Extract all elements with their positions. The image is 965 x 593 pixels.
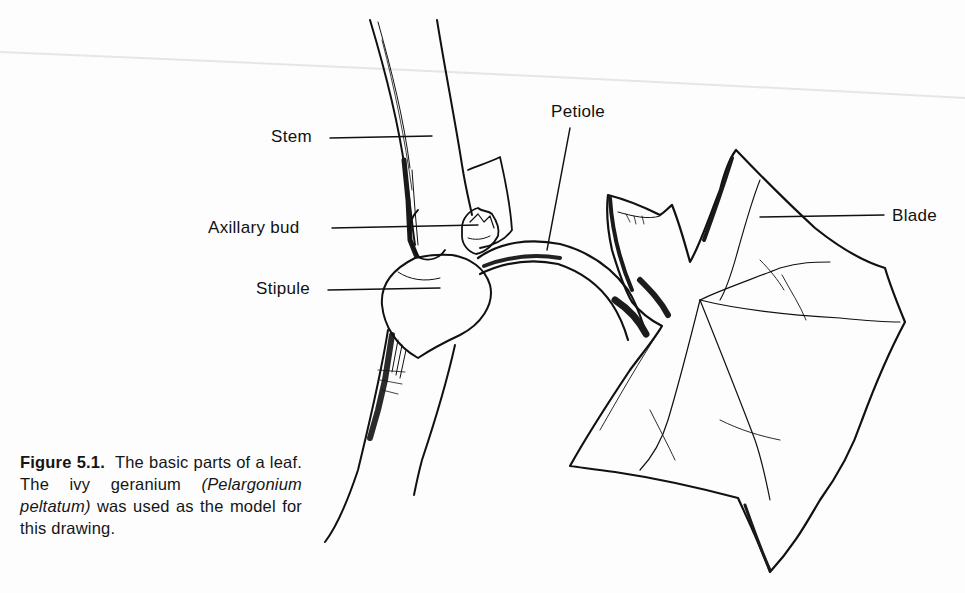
axillary-bud-leader-line xyxy=(332,225,478,228)
label-axillary-bud: Axillary bud xyxy=(208,218,299,238)
label-petiole: Petiole xyxy=(551,102,605,122)
figure-number: Figure 5.1. xyxy=(20,453,105,471)
label-blade: Blade xyxy=(892,206,937,226)
label-stem: Stem xyxy=(271,127,312,147)
stem-leader-line xyxy=(330,136,432,138)
lower-stem-drawing xyxy=(325,330,455,542)
stipule-drawing xyxy=(382,157,512,358)
blade-drawing xyxy=(570,150,905,572)
label-stipule: Stipule xyxy=(256,279,310,299)
petiole-leader-line xyxy=(547,128,570,250)
blade-leader-line xyxy=(760,215,884,217)
figure-caption: Figure 5.1.The basic parts of a leaf. Th… xyxy=(20,451,302,539)
petiole-drawing xyxy=(478,241,668,340)
stipule-leader-line xyxy=(328,288,440,290)
